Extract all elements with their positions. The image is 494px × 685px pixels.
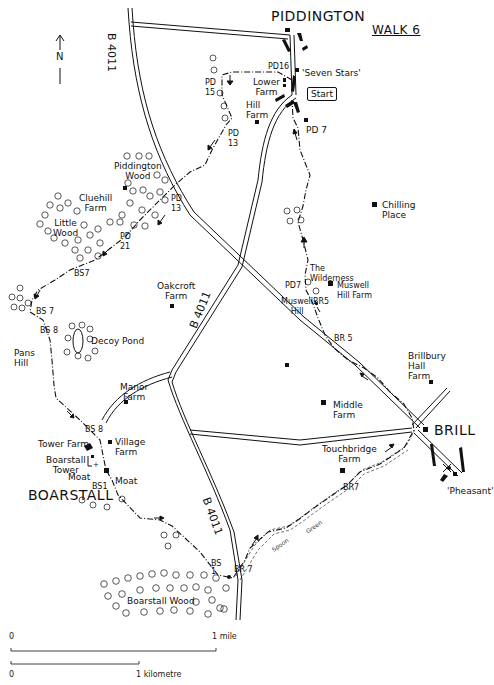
path-code-pd15: PD 15 xyxy=(205,78,216,98)
b4011-main-road xyxy=(168,95,292,620)
path-code-br7-lower: BR 7 xyxy=(234,565,253,575)
label-oakcroft-farm: Oakcroft Farm xyxy=(157,281,195,301)
road-label-b4011-north: B 4011 xyxy=(106,33,117,72)
label-hill-farm: Hill Farm xyxy=(246,100,268,120)
label-seven-stars: 'Seven Stars' xyxy=(302,68,361,78)
label-moat-left: Moat xyxy=(68,472,90,482)
label-moat-right: Moat xyxy=(115,476,137,486)
label-manor-farm: Manor Farm xyxy=(120,382,148,402)
village-brill: BRILL xyxy=(434,423,476,438)
north-label: N xyxy=(56,52,63,62)
walk-title: WALK 6 xyxy=(372,25,420,35)
scale-km-label: 1 kilometre xyxy=(136,670,182,679)
path-code-bs8-lower: BS 8 xyxy=(85,425,103,435)
path-code-br7-upper: BR7 xyxy=(343,483,359,493)
label-muswell-hill: Muswell Hill xyxy=(281,297,313,317)
trees xyxy=(9,55,319,617)
label-muswell-hill-farm: Muswell Hill Farm xyxy=(337,281,372,301)
label-chilling-place: Chilling Place xyxy=(382,200,415,220)
village-boarstall: BOARSTALL xyxy=(28,488,113,503)
path-code-bs8-upper: BS 8 xyxy=(40,326,58,336)
path-code-br5-lower: BR 5 xyxy=(334,334,353,344)
label-pans-hill: Pans Hill xyxy=(14,348,35,368)
village-piddington: PIDDINGTON xyxy=(271,9,365,24)
path-code-br5-upper: BR5 xyxy=(313,297,329,307)
path-code-bs7-lower: BS 7 xyxy=(36,307,54,317)
label-cluehill-farm: Cluehill Farm xyxy=(79,193,112,213)
label-brillbury-hall-farm: Brillbury Hall Farm xyxy=(408,351,446,381)
label-decoy-pond: Decoy Pond xyxy=(91,336,144,346)
label-middle-farm: Middle Farm xyxy=(333,400,363,420)
label-piddington-wood: Piddington Wood xyxy=(114,161,162,181)
path-code-pd16: PD16 xyxy=(268,62,289,72)
path-code-pd21: PD 21 xyxy=(120,232,131,252)
svg-text:+: + xyxy=(93,461,99,469)
scale-km-zero: 0 xyxy=(9,670,14,679)
label-tower-farm: Tower Farm xyxy=(38,439,89,449)
brill-ne-road xyxy=(412,388,447,425)
scale-bars xyxy=(11,648,216,664)
path-code-bs7-upper: BS7 xyxy=(74,269,90,279)
path-code-pd13-upper: PD 13 xyxy=(228,129,239,149)
label-pheasant: 'Pheasant' xyxy=(447,486,494,496)
start-marker: Start xyxy=(307,87,337,101)
scale-mile-zero: 0 xyxy=(9,632,14,641)
label-village-farm: Village Farm xyxy=(115,437,145,457)
label-little-wood: Little Wood xyxy=(53,218,78,238)
path-code-pd7-mid: PD7 xyxy=(285,281,301,291)
path-code-pd13-lower: PD 13 xyxy=(171,194,182,214)
scale-mile-label: 1 mile xyxy=(212,632,237,641)
path-code-pd7-top: PD 7 xyxy=(306,125,327,135)
label-boarstall-wood: Boarstall Wood xyxy=(127,596,195,606)
path-code-bs1-lower: BS 1 xyxy=(211,560,221,576)
road-to-brill xyxy=(190,428,412,440)
label-lower-farm: Lower Farm xyxy=(253,77,280,97)
label-touchbridge-farm: Touchbridge Farm xyxy=(322,444,377,464)
